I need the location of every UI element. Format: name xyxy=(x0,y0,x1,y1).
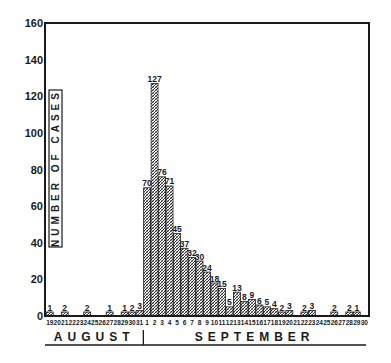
bar xyxy=(248,300,255,316)
bar-value-label: 2 xyxy=(302,303,307,313)
y-tick-label: 40 xyxy=(31,237,43,249)
x-tick-label: 27 xyxy=(338,319,346,326)
bar-value-label: 127 xyxy=(147,74,161,84)
y-tick-label: 80 xyxy=(31,164,43,176)
bar xyxy=(166,186,173,316)
x-tick-label: 22 xyxy=(69,319,77,326)
x-tick-label: 17 xyxy=(263,319,271,326)
bar xyxy=(226,307,233,316)
y-tick-label: 140 xyxy=(25,54,43,66)
bar-value-label: 30 xyxy=(195,252,205,262)
bar xyxy=(271,309,278,316)
bar xyxy=(181,248,188,316)
bar-value-label: 3 xyxy=(309,301,314,311)
bar xyxy=(189,257,196,316)
bar xyxy=(241,301,248,316)
bar xyxy=(256,305,263,316)
bar-value-label: 8 xyxy=(242,292,247,302)
bar-value-label: 9 xyxy=(250,290,255,300)
x-tick-label: 6 xyxy=(183,319,187,326)
bar-value-label: 71 xyxy=(165,176,175,186)
y-axis-label: NUMBER OF CASES xyxy=(50,89,61,247)
bar-value-label: 24 xyxy=(202,263,212,273)
bar-value-label: 2 xyxy=(332,303,337,313)
y-tick-label: 100 xyxy=(25,127,43,139)
x-tick-label: 28 xyxy=(346,319,354,326)
bar xyxy=(234,292,241,316)
x-tick-label: 1 xyxy=(145,319,149,326)
x-tick-label: 28 xyxy=(114,319,122,326)
x-tick-label: 31 xyxy=(136,319,144,326)
x-tick-label: 2 xyxy=(153,319,157,326)
bar-value-label: 2 xyxy=(85,303,90,313)
x-tick-label: 25 xyxy=(323,319,331,326)
x-tick-label: 10 xyxy=(211,319,219,326)
bar-value-label: 1 xyxy=(107,303,112,313)
y-tick-label: 160 xyxy=(25,17,43,29)
x-tick-label: 19 xyxy=(278,319,286,326)
bar-value-label: 5 xyxy=(265,297,270,307)
bar-value-label: 4 xyxy=(272,299,277,309)
bar-value-label: 5 xyxy=(227,297,232,307)
bars xyxy=(46,83,360,316)
bar-value-label: 15 xyxy=(217,279,227,289)
x-tick-label: 27 xyxy=(106,319,114,326)
x-tick-label: 9 xyxy=(205,319,209,326)
bar-value-label: 70 xyxy=(142,178,152,188)
month-label-august: AUGUST xyxy=(54,330,135,344)
bar-value-label: 1 xyxy=(354,303,359,313)
x-tick-label: 29 xyxy=(121,319,129,326)
x-tick-label: 5 xyxy=(175,319,179,326)
x-tick-label: 30 xyxy=(361,319,369,326)
x-tick-label: 4 xyxy=(168,319,172,326)
month-label-september: SEPTEMBER xyxy=(195,330,315,344)
x-tick-label: 16 xyxy=(256,319,264,326)
y-tick-label: 60 xyxy=(31,200,43,212)
x-tick-label: 20 xyxy=(286,319,294,326)
y-tick-label: 120 xyxy=(25,90,43,102)
x-tick-label: 30 xyxy=(128,319,136,326)
x-tick-label: 20 xyxy=(54,319,62,326)
bar xyxy=(144,188,151,316)
x-tick-label: 22 xyxy=(301,319,309,326)
x-tick-label: 26 xyxy=(331,319,339,326)
x-tick-label: 3 xyxy=(160,319,164,326)
bar-value-label: 2 xyxy=(280,303,285,313)
x-tick-label: 15 xyxy=(248,319,256,326)
x-tick-label: 21 xyxy=(293,319,301,326)
x-axis-tick-labels: 1920212223242526272829303112345678910111… xyxy=(46,319,368,326)
y-tick-label: 0 xyxy=(37,310,43,322)
x-tick-label: 26 xyxy=(99,319,107,326)
x-tick-label: 23 xyxy=(308,319,316,326)
month-band: AUGUST SEPTEMBER xyxy=(45,330,366,345)
bar xyxy=(219,289,226,316)
bar-value-label: 6 xyxy=(257,296,262,306)
x-tick-label: 21 xyxy=(61,319,69,326)
x-tick-label: 7 xyxy=(190,319,194,326)
y-axis-label-box: NUMBER OF CASES xyxy=(49,89,62,247)
bar-value-label: 3 xyxy=(287,301,292,311)
x-tick-label: 19 xyxy=(46,319,54,326)
x-tick-label: 29 xyxy=(353,319,361,326)
bar-value-label: 45 xyxy=(172,224,182,234)
x-tick-label: 13 xyxy=(233,319,241,326)
bar-value-label: 2 xyxy=(62,303,67,313)
bar-value-label: 1 xyxy=(47,303,52,313)
y-tick-label: 20 xyxy=(31,273,43,285)
x-tick-label: 12 xyxy=(226,319,234,326)
x-tick-label: 18 xyxy=(271,319,279,326)
epidemic-curve-chart: 020406080100120140160 122112370127767145… xyxy=(0,0,391,363)
x-tick-label: 11 xyxy=(219,319,226,326)
x-tick-label: 24 xyxy=(316,319,324,326)
bar-value-label: 2 xyxy=(347,303,352,313)
bar-value-label: 3 xyxy=(137,301,142,311)
x-tick-label: 23 xyxy=(76,319,84,326)
bar-value-label: 2 xyxy=(130,303,135,313)
bar-value-label: 13 xyxy=(232,283,242,293)
x-tick-label: 14 xyxy=(241,319,249,326)
x-tick-label: 24 xyxy=(84,319,92,326)
bar xyxy=(151,83,158,316)
bar-value-label: 1 xyxy=(122,303,127,313)
y-axis-ticks: 020406080100120140160 xyxy=(25,17,43,322)
x-tick-label: 25 xyxy=(91,319,99,326)
